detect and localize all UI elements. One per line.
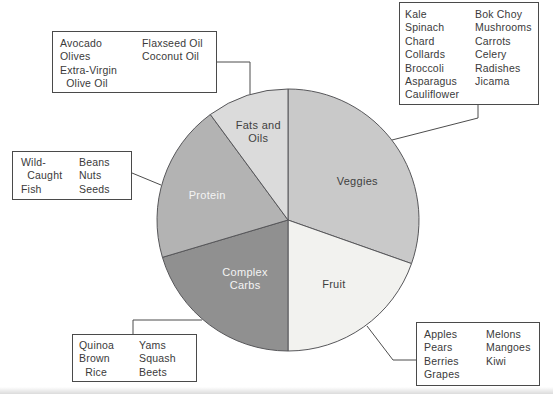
callout-food-item: Nuts	[79, 169, 110, 182]
callout-food-item: Celery	[475, 48, 532, 61]
callout-food-item: Cauliflower	[405, 88, 459, 101]
callout-protein-col2: BeansNutsSeeds	[79, 156, 110, 196]
connector-line-protein	[132, 173, 161, 185]
connector-line-fruit	[367, 326, 416, 360]
callout-food-item: Pears	[424, 341, 460, 354]
callout-protein-col1: Wild- CaughtFish	[21, 156, 62, 196]
callout-food-item: Caught	[21, 169, 62, 182]
callout-veggies-box: KaleSpinachChardCollardsBroccoliAsparagu…	[399, 2, 539, 105]
callout-food-item: Asparagus	[405, 75, 459, 88]
food-groups-pie-figure: VeggiesFruitComplexCarbsProteinFats andO…	[0, 0, 553, 394]
callout-food-item: Yams	[139, 339, 176, 352]
callout-food-item: Jicama	[475, 75, 532, 88]
callout-fats-and-oils-box: AvocadoOlivesExtra-Virgin Olive OilFlaxs…	[52, 31, 217, 93]
callout-fats-and-oils-col1: AvocadoOlivesExtra-Virgin Olive Oil	[60, 37, 117, 91]
callout-food-item: Kale	[405, 8, 459, 21]
callout-food-item: Broccoli	[405, 62, 459, 75]
callout-fruit-col1: ApplesPearsBerriesGrapes	[424, 328, 460, 382]
callout-food-item: Rice	[79, 366, 114, 379]
callout-food-item: Bok Choy	[475, 8, 532, 21]
callout-food-item: Seeds	[79, 183, 110, 196]
callout-complex-carbs-box: QuinoaBrown RiceYamsSquashBeets	[72, 334, 197, 382]
callout-fruit-box: ApplesPearsBerriesGrapesMelonsMangoesKiw…	[416, 322, 540, 386]
callout-food-item: Grapes	[424, 368, 460, 381]
callout-food-item: Collards	[405, 48, 459, 61]
callout-veggies-col2: Bok ChoyMushroomsCarrotsCeleryRadishesJi…	[475, 8, 532, 88]
callout-food-item: Kiwi	[486, 355, 531, 368]
callout-food-item: Avocado	[60, 37, 117, 50]
connector-line-complex-carbs	[133, 320, 202, 334]
connector-line-fats-and-oils	[217, 62, 250, 94]
callout-food-item: Beans	[79, 156, 110, 169]
callout-food-item: Fish	[21, 183, 62, 196]
callout-food-item: Quinoa	[79, 339, 114, 352]
callout-food-item: Melons	[486, 328, 531, 341]
pie-slice-label-veggies: Veggies	[337, 175, 378, 187]
callout-food-item: Chard	[405, 35, 459, 48]
callout-veggies-col1: KaleSpinachChardCollardsBroccoliAsparagu…	[405, 8, 459, 102]
callout-fats-and-oils-col2: Flaxseed OilCoconut Oil	[142, 37, 203, 64]
callout-food-item: Spinach	[405, 21, 459, 34]
callout-food-item: Squash	[139, 352, 176, 365]
callout-food-item: Olive Oil	[60, 77, 117, 90]
callout-food-item: Extra-Virgin	[60, 64, 117, 77]
callout-complex-carbs-col2: YamsSquashBeets	[139, 339, 176, 379]
pie-slice-label-protein: Protein	[189, 189, 226, 201]
callout-food-item: Mushrooms	[475, 21, 532, 34]
callout-fruit-col2: MelonsMangoesKiwi	[486, 328, 531, 368]
callout-food-item: Wild-	[21, 156, 62, 169]
callout-food-item: Mangoes	[486, 341, 531, 354]
callout-food-item: Radishes	[475, 62, 532, 75]
callout-protein-box: Wild- CaughtFishBeansNutsSeeds	[12, 151, 132, 200]
connector-line-veggies	[392, 103, 478, 140]
callout-food-item: Berries	[424, 355, 460, 368]
callout-food-item: Apples	[424, 328, 460, 341]
callout-food-item: Carrots	[475, 35, 532, 48]
callout-food-item: Coconut Oil	[142, 50, 203, 63]
pie-slice-label-fruit: Fruit	[322, 278, 346, 290]
callout-food-item: Flaxseed Oil	[142, 37, 203, 50]
callout-food-item: Olives	[60, 50, 117, 63]
callout-food-item: Beets	[139, 366, 176, 379]
callout-food-item: Brown	[79, 352, 114, 365]
callout-complex-carbs-col1: QuinoaBrown Rice	[79, 339, 114, 379]
